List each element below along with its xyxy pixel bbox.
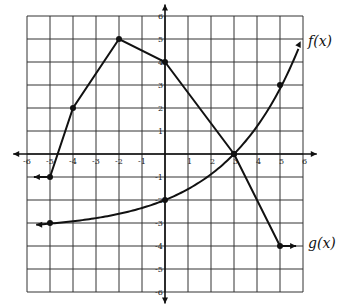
- coordinate-plane: -6-5-4-3-2-1123456654321-1-2-3-4-5-6 f(x…: [0, 0, 342, 307]
- svg-text:-5: -5: [46, 157, 54, 166]
- svg-text:-4: -4: [155, 242, 163, 251]
- svg-text:2: 2: [210, 157, 215, 166]
- svg-text:5: 5: [158, 35, 163, 44]
- function-curves: [34, 36, 299, 249]
- svg-text:1: 1: [158, 127, 163, 136]
- svg-text:5: 5: [279, 157, 284, 166]
- f-label: f(x): [307, 33, 332, 49]
- svg-text:-5: -5: [155, 265, 163, 274]
- g-label: g(x): [308, 235, 336, 251]
- svg-text:-1: -1: [138, 157, 146, 166]
- svg-text:-4: -4: [69, 157, 77, 166]
- svg-text:4: 4: [256, 157, 261, 166]
- svg-text:3: 3: [158, 81, 163, 90]
- svg-text:-3: -3: [155, 219, 163, 228]
- svg-text:2: 2: [158, 104, 163, 113]
- svg-text:-3: -3: [92, 157, 100, 166]
- svg-text:-6: -6: [23, 157, 31, 166]
- svg-text:-2: -2: [115, 157, 123, 166]
- svg-text:6: 6: [158, 12, 163, 21]
- svg-text:-1: -1: [155, 173, 163, 182]
- axes: [13, 5, 317, 304]
- svg-text:6: 6: [302, 157, 307, 166]
- svg-text:-6: -6: [155, 288, 163, 297]
- svg-text:1: 1: [187, 157, 192, 166]
